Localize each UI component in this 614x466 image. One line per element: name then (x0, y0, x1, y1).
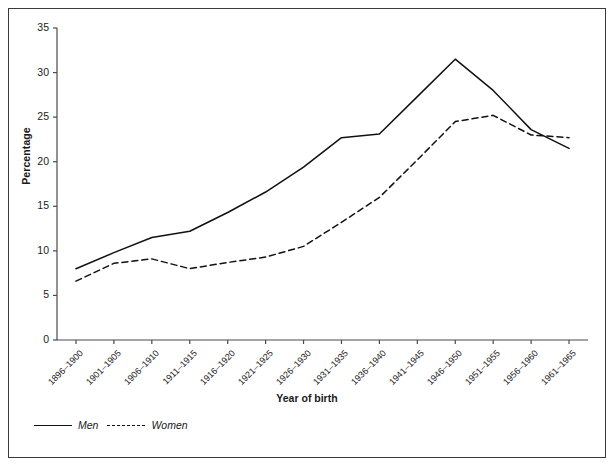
legend-line-men-icon (34, 425, 72, 426)
legend-line-women-icon (107, 425, 145, 426)
legend-label-men: Men (78, 420, 98, 431)
chart-legend: Men Women (34, 420, 188, 431)
legend-item-women: Women (107, 420, 187, 431)
chart-figure: Percentage Year of birth 05101520253035 … (0, 0, 614, 466)
series-line-men (76, 59, 569, 268)
plot-area (0, 0, 614, 466)
series-line-women (76, 115, 569, 281)
legend-label-women: Women (151, 420, 187, 431)
legend-item-men: Men (34, 420, 98, 431)
